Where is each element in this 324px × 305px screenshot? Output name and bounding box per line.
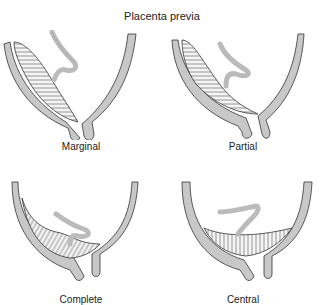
label-marginal: Marginal: [0, 141, 162, 152]
label-partial: Partial: [162, 141, 324, 152]
uterus-central-illustration: [162, 178, 324, 288]
uterus-partial-illustration: [162, 30, 324, 140]
panel-central: Central: [162, 178, 324, 305]
uterus-complete-illustration: [0, 178, 162, 288]
panel-marginal: Marginal: [0, 30, 162, 160]
label-central: Central: [162, 294, 324, 305]
label-complete: Complete: [0, 294, 162, 305]
uterus-marginal-illustration: [0, 30, 162, 140]
diagram-title: Placenta previa: [0, 10, 324, 22]
panel-complete: Complete: [0, 178, 162, 305]
panel-partial: Partial: [162, 30, 324, 160]
